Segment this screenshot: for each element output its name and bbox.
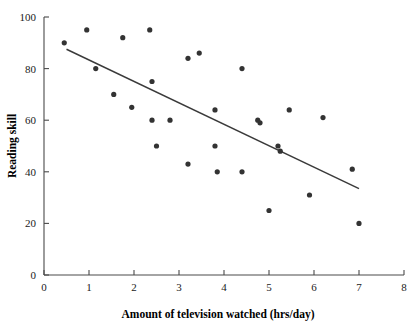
data-point bbox=[320, 115, 325, 120]
data-point bbox=[185, 161, 190, 166]
y-tick-label: 100 bbox=[20, 11, 37, 23]
data-point bbox=[149, 79, 154, 84]
data-point bbox=[93, 66, 98, 71]
data-point bbox=[212, 143, 217, 148]
data-point bbox=[212, 107, 217, 112]
data-point bbox=[278, 149, 283, 154]
y-tick-label: 20 bbox=[25, 217, 37, 229]
y-tick-label: 60 bbox=[25, 114, 37, 126]
data-point bbox=[197, 51, 202, 56]
y-tick-label: 40 bbox=[25, 166, 37, 178]
x-tick-label: 3 bbox=[176, 281, 182, 293]
chart-container: 012345678 020406080100 Amount of televis… bbox=[0, 0, 418, 328]
data-point bbox=[185, 56, 190, 61]
data-point bbox=[266, 208, 271, 213]
x-tick-label: 2 bbox=[131, 281, 137, 293]
data-point bbox=[350, 167, 355, 172]
x-tick-label: 0 bbox=[41, 281, 47, 293]
data-point bbox=[275, 143, 280, 148]
x-axis-title: Amount of television watched (hrs/day) bbox=[122, 308, 315, 321]
data-point bbox=[239, 169, 244, 174]
x-tick-group: 012345678 bbox=[41, 270, 407, 293]
data-point bbox=[149, 118, 154, 123]
regression-line bbox=[67, 49, 360, 188]
y-tick-label: 80 bbox=[25, 63, 37, 75]
data-point bbox=[111, 92, 116, 97]
data-point bbox=[154, 143, 159, 148]
x-tick-label: 1 bbox=[86, 281, 92, 293]
y-tick-group: 020406080100 bbox=[20, 11, 50, 281]
data-point bbox=[287, 107, 292, 112]
y-tick-label: 0 bbox=[31, 269, 37, 281]
x-tick-label: 5 bbox=[266, 281, 272, 293]
data-point bbox=[120, 35, 125, 40]
data-point bbox=[129, 105, 134, 110]
x-tick-label: 7 bbox=[356, 281, 362, 293]
data-point bbox=[84, 27, 89, 32]
data-point bbox=[257, 120, 262, 125]
data-point bbox=[239, 66, 244, 71]
x-tick-label: 6 bbox=[311, 281, 317, 293]
x-tick-label: 4 bbox=[221, 281, 227, 293]
scatter-plot: 012345678 020406080100 Amount of televis… bbox=[0, 0, 418, 328]
data-point bbox=[356, 221, 361, 226]
data-point bbox=[167, 118, 172, 123]
y-axis-title: Reading skill bbox=[6, 114, 19, 178]
data-point bbox=[62, 40, 67, 45]
data-point bbox=[147, 27, 152, 32]
x-tick-label: 8 bbox=[401, 281, 407, 293]
data-point bbox=[307, 192, 312, 197]
data-points-group bbox=[62, 27, 362, 226]
axes-group bbox=[44, 17, 404, 275]
trend-line-group bbox=[67, 49, 360, 188]
data-point bbox=[215, 169, 220, 174]
